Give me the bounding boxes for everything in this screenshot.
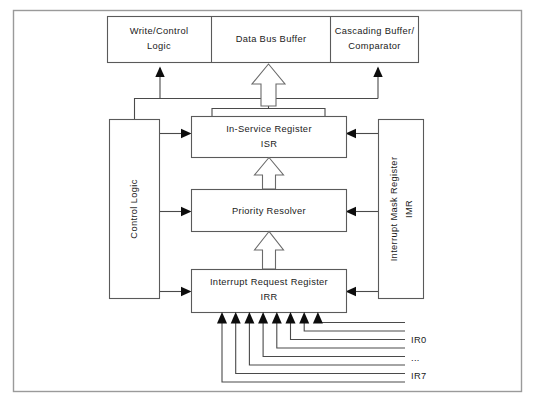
arrowhead-imr-to-irr	[346, 287, 357, 296]
arrowhead-imr-to-isr	[346, 129, 357, 138]
priority-resolver-label-line1: Priority Resolver	[232, 206, 306, 216]
control-logic-block: Control Logic	[110, 120, 160, 299]
ir-line-1	[318, 314, 405, 323]
interrupt-request-register-box	[192, 270, 347, 313]
hollow-arrow-priority-to-isr	[255, 158, 284, 190]
arrowhead-control-to-irr	[181, 287, 192, 296]
block-diagram: Write/Control Logic Data Bus Buffer Casc…	[0, 0, 536, 403]
arrowhead-control-to-priority	[181, 207, 192, 216]
arrowhead-to-write-control-logic	[155, 67, 164, 78]
in-service-register-label-line2: ISR	[261, 139, 278, 149]
ir-line-5	[263, 314, 405, 357]
interrupt-request-lines-group	[217, 312, 405, 382]
priority-resolver-block: Priority Resolver	[192, 190, 347, 232]
cascading-buffer-comparator-label-line1: Cascading Buffer/	[335, 26, 415, 36]
connector-isr-top-stubs	[212, 109, 325, 117]
interrupt-request-register-block: Interrupt Request Register IRR	[192, 270, 347, 313]
control-logic-label: Control Logic	[129, 179, 139, 238]
arrowhead-to-cascading-buffer	[373, 67, 382, 78]
interrupt-request-register-label-line1: Interrupt Request Register	[210, 277, 328, 287]
ir0-label: IR0	[411, 335, 427, 345]
arrowhead-ir-4	[272, 312, 282, 324]
top-row-group: Write/Control Logic Data Bus Buffer Casc…	[108, 17, 419, 63]
data-bus-buffer-label-line1: Data Bus Buffer	[236, 34, 307, 44]
arrowhead-control-to-isr	[181, 129, 192, 138]
arrowhead-ir-8	[217, 312, 227, 324]
interrupt-mask-register-label-line2: IMR	[404, 200, 414, 218]
interrupt-request-register-label-line2: IRR	[260, 292, 277, 302]
hollow-arrow-irr-to-priority	[255, 232, 284, 270]
arrowhead-ir-6	[244, 312, 254, 324]
interrupt-mask-register-label-line1: Interrupt Mask Register	[389, 157, 399, 262]
ir-line-3	[291, 314, 406, 340]
write-control-logic-label-line2: Logic	[147, 41, 171, 51]
in-service-register-block: In-Service Register ISR	[192, 117, 347, 158]
cascading-buffer-comparator-label-line2: Comparator	[348, 41, 401, 51]
arrowhead-ir-5	[258, 312, 268, 324]
ir7-label: IR7	[411, 371, 427, 381]
arrowhead-ir-1	[313, 312, 323, 324]
diagram-canvas: Write/Control Logic Data Bus Buffer Casc…	[0, 0, 536, 403]
arrowhead-imr-to-priority	[346, 207, 357, 216]
arrowhead-ir-2	[299, 312, 309, 324]
hollow-arrow-to-data-bus-buffer	[252, 64, 285, 106]
interrupt-mask-register-block: Interrupt Mask Register IMR	[379, 120, 424, 299]
ir-ellipsis-label: ...	[411, 353, 420, 363]
in-service-register-label-line1: In-Service Register	[226, 124, 312, 134]
interrupt-mask-register-box	[379, 120, 424, 299]
write-control-logic-label-line1: Write/Control	[130, 26, 189, 36]
arrowhead-ir-3	[286, 312, 296, 324]
in-service-register-box	[192, 117, 347, 158]
arrowhead-ir-7	[231, 312, 241, 324]
